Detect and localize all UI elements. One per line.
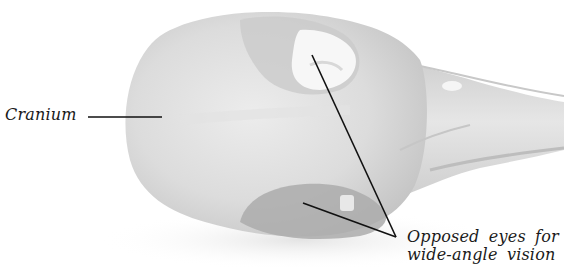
opposed-eyes-label-line1: Opposed eyes for [407, 228, 559, 246]
figure-canvas: Cranium Opposed eyes for wide-angle visi… [0, 0, 564, 270]
opposed-eyes-label: Opposed eyes for wide-angle vision [407, 228, 559, 264]
cranium-label: Cranium [5, 106, 77, 124]
opposed-eyes-label-line2: wide-angle vision [407, 246, 559, 264]
nostril-opening [442, 81, 462, 91]
orbit-bone-fleck [340, 195, 354, 211]
